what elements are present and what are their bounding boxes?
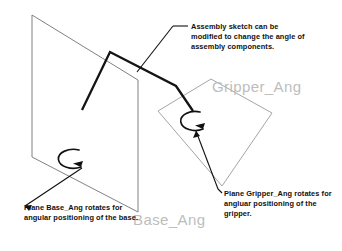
assembly-sketch-polyline xyxy=(82,52,193,111)
assembly-sketch-callout-text: Assembly sketch can be modified to chang… xyxy=(191,22,311,53)
assembly-callout-leader xyxy=(137,26,188,72)
technical-diagram: Base_Ang Gripper_Ang Assembly sketch can… xyxy=(0,0,342,251)
gripper-plane-outline xyxy=(158,79,272,186)
base-plane-outline xyxy=(32,15,138,212)
gripper-callout-leader xyxy=(193,131,222,193)
gripper-rotation-arrow xyxy=(181,111,205,130)
base-plane-callout-text: Plane Base_Ang rotates for angular posit… xyxy=(24,203,146,223)
base-rotation-arrow xyxy=(58,149,83,168)
gripper-plane-label: Gripper_Ang xyxy=(212,78,301,95)
gripper-plane-callout-text: Plane Gripper_Ang rotates for angluar po… xyxy=(224,189,342,220)
